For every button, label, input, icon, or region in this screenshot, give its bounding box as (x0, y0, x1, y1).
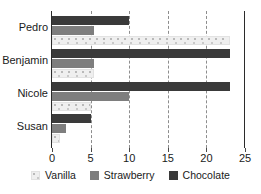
bar-vanilla-benjamin (52, 69, 94, 78)
bar-chart: PedroBenjaminNicoleSusan 0510152025 Vani… (0, 0, 261, 194)
bar-chocolate-benjamin (52, 49, 230, 58)
bar-chocolate-nicole (52, 82, 230, 91)
tick-label-25: 25 (230, 152, 260, 164)
category-label-nicole: Nicole (17, 88, 48, 99)
bar-chocolate-susan (52, 114, 91, 123)
chocolate-swatch (169, 171, 178, 180)
bar-group (52, 45, 245, 78)
legend-label-strawberry: Strawberry (104, 170, 155, 181)
legend-item-chocolate[interactable]: Chocolate (169, 170, 230, 181)
legend-label-chocolate: Chocolate (183, 170, 230, 181)
legend-item-vanilla[interactable]: Vanilla (31, 170, 76, 181)
chart-legend: VanillaStrawberryChocolate (0, 170, 261, 181)
bar-group (52, 78, 245, 111)
tick-label-5: 5 (76, 152, 106, 164)
bar-chocolate-pedro (52, 16, 129, 25)
bar-vanilla-nicole (52, 102, 91, 111)
bar-strawberry-benjamin (52, 59, 94, 68)
tick-label-15: 15 (153, 152, 183, 164)
category-label-benjamin: Benjamin (2, 55, 48, 66)
bar-group (52, 12, 245, 45)
strawberry-swatch (90, 171, 99, 180)
vanilla-swatch (31, 171, 40, 180)
tick-label-10: 10 (114, 152, 144, 164)
category-label-susan: Susan (17, 121, 48, 132)
bar-strawberry-nicole (52, 92, 129, 101)
category-label-pedro: Pedro (19, 22, 48, 33)
bar-strawberry-susan (52, 124, 66, 133)
tick-label-0: 0 (37, 152, 67, 164)
plot-area (52, 12, 245, 143)
bar-vanilla-pedro (52, 36, 230, 45)
legend-label-vanilla: Vanilla (45, 170, 76, 181)
tick-label-20: 20 (191, 152, 221, 164)
bar-group (52, 110, 245, 143)
category-label-column: PedroBenjaminNicoleSusan (0, 12, 48, 143)
bar-vanilla-susan (52, 134, 60, 143)
legend-item-strawberry[interactable]: Strawberry (90, 170, 155, 181)
bar-strawberry-pedro (52, 26, 94, 35)
